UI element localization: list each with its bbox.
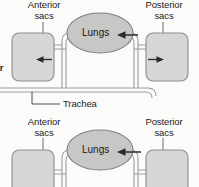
label-anterior-sacs-top-line1: Anterior: [28, 0, 60, 10]
avian-respiratory-diagram: Anterior sacs Posterior sacs Lungs Trach…: [0, 0, 199, 187]
anterior-air-sac-top: [12, 33, 54, 81]
label-posterior-sacs-bottom-line2: sacs: [154, 127, 173, 138]
posterior-air-sac-bottom: [146, 150, 188, 187]
panel-bottom-graphics: [12, 130, 188, 187]
anterior-air-sac-bottom: [12, 150, 54, 187]
leader-line-trachea: [32, 92, 60, 104]
label-anterior-sacs-bottom-line1: Anterior: [28, 116, 60, 127]
label-trachea: Trachea: [63, 99, 97, 110]
label-anterior-sacs-bottom-line2: sacs: [34, 127, 53, 138]
label-posterior-sacs-top: Posterior sacs: [133, 0, 195, 21]
label-lungs-top: Lungs: [82, 27, 109, 38]
label-anterior-sacs-top-line2: sacs: [34, 10, 53, 21]
label-posterior-sacs-top-line2: sacs: [154, 10, 173, 21]
posterior-air-sac-top: [146, 33, 188, 81]
label-posterior-sacs-bottom: Posterior sacs: [133, 117, 195, 138]
cropped-label-fragment-left: or: [0, 62, 4, 73]
label-lungs-bottom: Lungs: [82, 144, 109, 155]
label-anterior-sacs-bottom: Anterior sacs: [14, 117, 74, 138]
label-posterior-sacs-top-line1: Posterior: [145, 0, 182, 10]
label-posterior-sacs-bottom-line1: Posterior: [145, 116, 182, 127]
label-anterior-sacs-top: Anterior sacs: [14, 0, 74, 21]
